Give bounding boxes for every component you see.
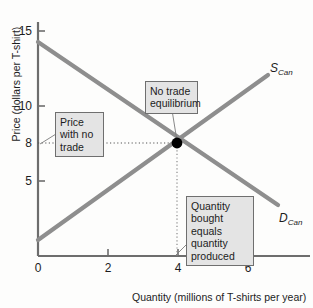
supply-curve-label-subscript: Can [278,68,293,77]
equilibrium-point-marker [172,138,183,149]
supply-curve-label-letter: S [270,61,278,75]
x-tick-label-2: 2 [98,261,118,275]
callout-quantity-bought-equals-produced: Quantity bought equals quantity produced [186,196,254,266]
y-tick-label-5: 5 [10,174,32,188]
supply-curve-label: SCan [270,61,293,77]
chart-figure: 15 10 8 5 0 2 4 6 Price (dollars per T-s… [0,0,313,308]
callout-no-trade-equilibrium: No trade equilibrium [145,81,198,114]
x-axis-title: Quantity (millions of T-shirts per year) [132,291,306,303]
demand-curve-label: DCan [279,211,302,227]
demand-curve-label-letter: D [279,211,288,225]
x-tick-label-0: 0 [28,261,48,275]
callout-price-with-no-trade: Price with no trade [55,112,104,157]
demand-curve-label-subscript: Can [288,218,303,227]
x-tick-label-4: 4 [168,261,188,275]
y-axis-title: Price (dollars per T-shirt) [10,14,22,154]
